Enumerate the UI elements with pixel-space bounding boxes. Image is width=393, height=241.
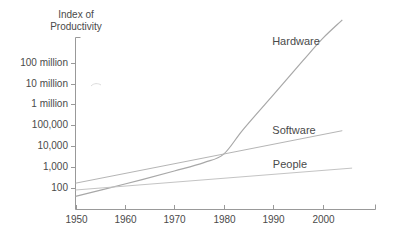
productivity-chart: Index of Productivity 100 million10 mill…: [0, 0, 393, 241]
series-label-hardware: Hardware: [272, 35, 320, 47]
y-tick-label: 100,000: [0, 119, 68, 131]
series-label-software: Software: [272, 124, 315, 136]
y-tick-label: 1 million: [0, 98, 68, 110]
x-tick-label: 1970: [158, 214, 192, 226]
people-line: [76, 168, 353, 190]
software-line: [76, 131, 343, 184]
x-tick-label: 1990: [257, 214, 291, 226]
y-tick-label: 10,000: [0, 140, 68, 152]
x-tick-label: 1980: [208, 214, 242, 226]
y-tick-label: 10 million: [0, 78, 68, 90]
smudge-artifact: [91, 84, 101, 86]
y-tick-label: 100 million: [0, 57, 68, 69]
y-tick-label: 100: [0, 182, 68, 194]
x-tick-label: 1950: [60, 214, 94, 226]
series-label-people: People: [273, 158, 307, 170]
x-tick-label: 2000: [307, 214, 341, 226]
x-tick-label: 1960: [109, 214, 143, 226]
y-tick-label: 1,000: [0, 161, 68, 173]
